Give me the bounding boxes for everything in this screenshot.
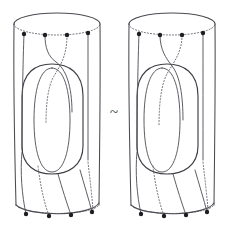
right-top-endpoint-4: [201, 31, 205, 35]
right-bottom-endpoint-4: [205, 210, 209, 214]
right-strand-bottom-3: [173, 174, 186, 215]
tangle-equivalence-figure: ~: [0, 0, 230, 232]
right-outer-rounded-loop: [137, 64, 198, 174]
left-cylinder-left-wall: [14, 24, 16, 205]
left-top-endpoint-4: [86, 31, 90, 35]
left-bottom-endpoint-4: [90, 210, 94, 214]
left-strand-top-2: [45, 35, 72, 112]
right-cylinder-bottom-rim-front: [131, 203, 214, 214]
left-outer-rounded-loop: [22, 64, 83, 174]
right-top-endpoint-3: [180, 33, 184, 37]
right-cylinder-bottom-rim-back: [131, 205, 214, 213]
diagram-canvas: ~: [0, 0, 230, 232]
right-strand-bottom-5: [203, 162, 208, 210]
right-strand-top-1: [137, 34, 139, 150]
equivalence-relation-symbol: ~: [110, 104, 118, 120]
left-cylinder-bottom-rim-back: [16, 205, 99, 213]
left-bottom-endpoint-3: [69, 213, 73, 217]
left-top-endpoint-1: [22, 32, 26, 36]
right-bottom-endpoint-2: [162, 214, 166, 218]
left-strand-bottom-5: [88, 162, 93, 210]
right-cylinder-left-wall: [129, 24, 131, 205]
right-cylinder-right-wall: [214, 24, 215, 205]
right-cylinder-group: [129, 13, 215, 218]
left-cylinder-group: [14, 13, 100, 218]
left-strand-bottom-4: [80, 170, 92, 212]
right-top-endpoint-1: [137, 32, 141, 36]
left-cylinder-right-wall: [99, 24, 100, 205]
left-bottom-endpoint-1: [24, 212, 28, 216]
right-strand-bottom-4: [195, 170, 207, 212]
left-bottom-endpoint-2: [47, 214, 51, 218]
left-strand-top-1: [22, 34, 24, 150]
left-top-endpoint-3: [65, 33, 69, 37]
right-top-endpoint-2: [158, 33, 162, 37]
left-cylinder-top-rim-front: [14, 13, 100, 24]
left-strand-bottom-3: [58, 174, 71, 215]
right-bottom-endpoint-3: [184, 213, 188, 217]
right-cylinder-top-rim-front: [129, 13, 215, 24]
left-inner-oval-loop: [34, 68, 70, 172]
right-inner-oval-loop: [144, 68, 180, 172]
right-bottom-endpoint-1: [139, 212, 143, 216]
left-cylinder-bottom-rim-front: [16, 203, 99, 214]
left-top-endpoint-2: [43, 33, 47, 37]
